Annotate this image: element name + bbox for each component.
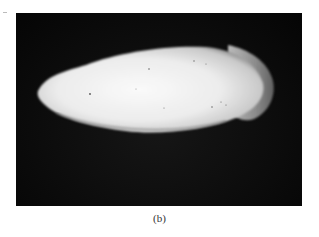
panel-label: (b) [0, 212, 319, 224]
scan-artifact [3, 12, 7, 13]
specimen-body [38, 47, 264, 133]
specimen-image [16, 13, 302, 206]
figure-photo [16, 13, 302, 206]
